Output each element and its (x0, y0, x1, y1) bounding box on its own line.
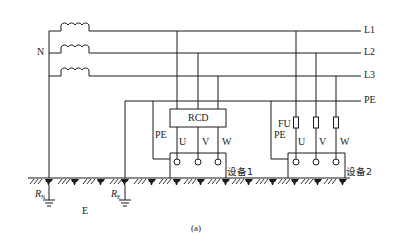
figure-caption: (a) (191, 224, 201, 233)
label-eq1-v: V (202, 137, 209, 147)
label-re: RE (111, 189, 121, 200)
eq2-terminal-u (293, 159, 299, 165)
label-equipment1: 设备1 (227, 167, 253, 177)
label-l2: L2 (364, 47, 375, 57)
label-eq2-v: V (319, 137, 326, 147)
label-earth: E (82, 206, 88, 216)
label-eq2-w: W (340, 137, 349, 147)
eq1-terminal-w (215, 159, 221, 165)
transformer-winding-l2 (49, 45, 89, 53)
label-neutral: N (37, 47, 44, 57)
eq2-terminal-w (333, 159, 339, 165)
label-eq1-pe: PE (155, 130, 167, 140)
transformer-winding-l3 (49, 68, 89, 76)
eq1-terminal-v (195, 159, 201, 165)
transformer-winding-l1 (49, 23, 89, 31)
eq2-terminal-v (313, 159, 319, 165)
label-eq1-u: U (179, 137, 186, 147)
eq1-terminal-u (174, 159, 180, 165)
label-equipment2: 设备2 (346, 167, 372, 177)
label-eq2-pe: PE (274, 130, 286, 140)
label-l3: L3 (364, 70, 375, 80)
fuse-u (294, 117, 299, 128)
label-fuse: FU (278, 119, 291, 129)
label-rcd: RCD (188, 113, 209, 123)
label-eq2-u: U (298, 137, 305, 147)
label-rn: RN (35, 189, 45, 200)
label-eq1-w: W (222, 137, 231, 147)
fuse-v (314, 117, 319, 128)
fuse-w (334, 117, 339, 128)
label-l1: L1 (364, 25, 375, 35)
label-pe-line: PE (364, 95, 376, 105)
